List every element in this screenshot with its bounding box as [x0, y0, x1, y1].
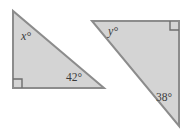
- right-triangle-angle-y-label: y°: [107, 24, 118, 38]
- left-triangle-angle-x-label: x°: [20, 29, 31, 43]
- figure-canvas: x° 42° y° 38°: [0, 0, 183, 134]
- geometry-figure: x° 42° y° 38°: [0, 0, 183, 134]
- left-triangle-angle-42-label: 42°: [66, 71, 83, 83]
- right-triangle-angle-38-label: 38°: [156, 91, 173, 103]
